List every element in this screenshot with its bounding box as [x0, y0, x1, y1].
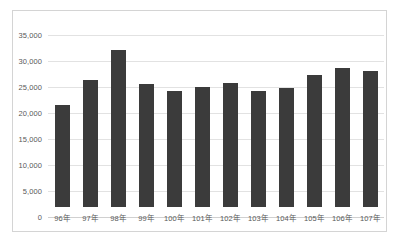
x-axis-tick-label: 98年: [110, 212, 126, 223]
bar[interactable]: [335, 68, 350, 207]
bars-layer: [48, 25, 384, 207]
x-axis-tick-label: 101年: [192, 212, 212, 223]
x-axis-tick-label: 103年: [248, 212, 268, 223]
x-axis-tick-label: 97年: [82, 212, 98, 223]
y-axis-tick-label: 20,000: [18, 109, 42, 118]
y-axis-tick-label: 0: [38, 213, 42, 222]
x-axis-tick-label: 96年: [54, 212, 70, 223]
bar[interactable]: [111, 50, 126, 207]
y-axis-tick-labels: 05,00010,00015,00020,00025,00030,00035,0…: [13, 25, 46, 217]
x-axis-tick-label: 104年: [276, 212, 296, 223]
x-axis-tick-label: 100年: [164, 212, 184, 223]
chart-frame: 05,00010,00015,00020,00025,00030,00035,0…: [12, 10, 387, 232]
bar[interactable]: [167, 91, 182, 207]
y-axis-tick-label: 5,000: [23, 187, 42, 196]
x-axis-tick-label: 106年: [332, 212, 352, 223]
x-axis-tick-label: 102年: [220, 212, 240, 223]
x-axis-tick-label: 105年: [304, 212, 324, 223]
bar-chart: 05,00010,00015,00020,00025,00030,00035,0…: [0, 0, 398, 245]
x-axis-tick-label: 99年: [138, 212, 154, 223]
bar[interactable]: [307, 75, 322, 207]
bar[interactable]: [251, 91, 266, 207]
y-axis-tick-label: 30,000: [18, 57, 42, 66]
bar[interactable]: [195, 87, 210, 207]
x-axis-tick-labels: 96年97年98年99年100年101年102年103年104年105年106年…: [48, 209, 384, 227]
y-axis-tick-label: 35,000: [18, 31, 42, 40]
bar[interactable]: [139, 84, 154, 207]
y-axis-tick-label: 15,000: [18, 135, 42, 144]
bar[interactable]: [223, 83, 238, 207]
y-axis-tick-label: 10,000: [18, 161, 42, 170]
bar[interactable]: [83, 80, 98, 207]
bar[interactable]: [279, 88, 294, 207]
x-axis-tick-label: 107年: [360, 212, 380, 223]
bar[interactable]: [363, 71, 378, 207]
y-axis-tick-label: 25,000: [18, 83, 42, 92]
bar[interactable]: [55, 105, 70, 207]
